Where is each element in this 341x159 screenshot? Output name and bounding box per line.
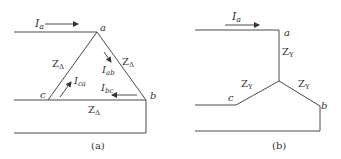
node-b-label: b — [321, 100, 327, 111]
node-a-label: a — [100, 22, 106, 33]
circuit-diagrams: Ia a ZΔ ZΔ Iab Ica Ibc c b ZΔ (a) Ia a Z… — [0, 0, 341, 159]
current-ia-label: Ia — [231, 10, 241, 24]
current-ica-label: Ica — [73, 75, 86, 88]
impedance-ab-label: ZΔ — [122, 56, 134, 69]
node-c-label: c — [228, 92, 234, 103]
impedance-ca-label: ZΔ — [52, 58, 64, 71]
current-iab-label: Iab — [101, 64, 115, 77]
caption-a: (a) — [91, 140, 105, 151]
wye-labels: Ia a ZY ZY ZY c b (b) — [228, 10, 327, 151]
impedance-bc-label: ZΔ — [88, 104, 100, 117]
delta-labels: Ia a ZΔ ZΔ Iab Ica Ibc c b ZΔ (a) — [34, 17, 156, 151]
arrow-iab-icon — [104, 52, 111, 62]
impedance-a-label: ZY — [282, 46, 294, 59]
current-ibc-label: Ibc — [100, 82, 113, 95]
current-ia-label: Ia — [34, 17, 44, 31]
node-b-label: b — [150, 90, 156, 101]
caption-b: (b) — [272, 140, 286, 151]
node-c-label: c — [40, 89, 46, 100]
delta-diagram — [14, 24, 146, 133]
arrow-ica-icon — [60, 82, 71, 97]
impedance-c-label: ZY — [241, 78, 253, 91]
impedance-b-label: ZY — [298, 78, 310, 91]
node-a-label: a — [284, 27, 290, 38]
